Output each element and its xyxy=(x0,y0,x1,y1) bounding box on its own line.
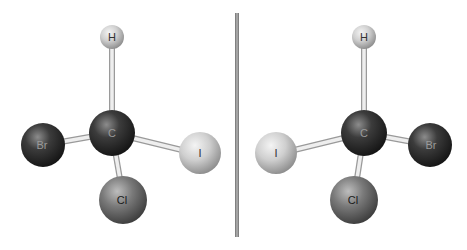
atom-label-br: Br xyxy=(426,139,437,151)
atom-cl: Cl xyxy=(330,176,378,224)
right-enantiomer: H I Br C Cl xyxy=(255,25,452,224)
atom-i: I xyxy=(179,132,221,174)
atom-c: C xyxy=(341,110,387,156)
atom-label-i: I xyxy=(198,147,201,159)
atom-label-i: I xyxy=(274,147,277,159)
atom-label-c: C xyxy=(108,127,116,139)
atom-label-cl: Cl xyxy=(117,194,127,206)
mirror-plane xyxy=(235,13,239,237)
atom-br: Br xyxy=(21,123,65,167)
enantiomer-diagram: H Br I C Cl xyxy=(0,0,467,250)
atom-label-h: H xyxy=(360,31,368,43)
atom-h: H xyxy=(352,25,376,49)
atom-i: I xyxy=(255,132,297,174)
atom-label-h: H xyxy=(108,31,116,43)
atom-label-br: Br xyxy=(37,139,48,151)
atom-label-cl: Cl xyxy=(348,194,358,206)
left-enantiomer: H Br I C Cl xyxy=(21,25,221,224)
atom-br: Br xyxy=(408,123,452,167)
atom-cl: Cl xyxy=(99,176,147,224)
atom-c: C xyxy=(89,110,135,156)
atom-label-c: C xyxy=(360,127,368,139)
atom-h: H xyxy=(100,25,124,49)
